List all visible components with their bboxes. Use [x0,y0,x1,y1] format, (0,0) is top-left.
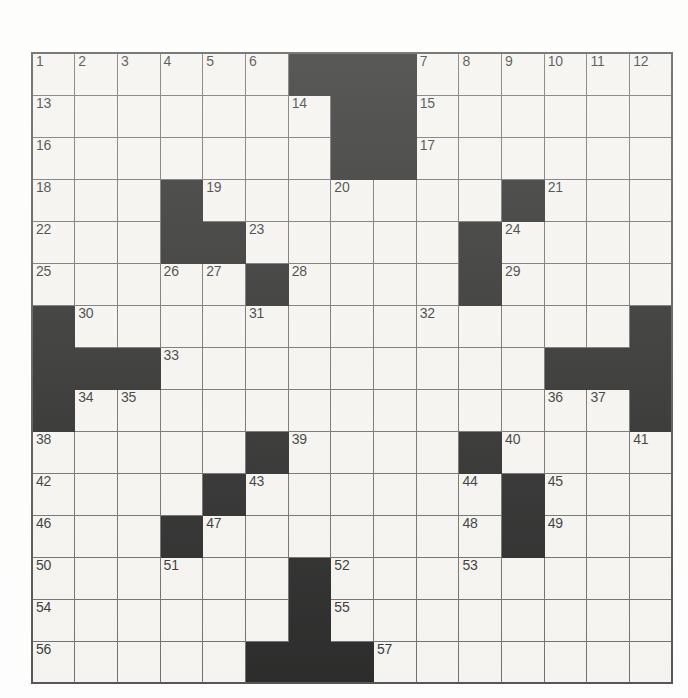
crossword-cell[interactable]: 34 [75,389,118,431]
crossword-cell[interactable] [203,557,246,599]
crossword-cell[interactable] [117,557,160,599]
crossword-cell[interactable] [374,515,417,557]
crossword-cell[interactable] [416,473,459,515]
crossword-cell[interactable] [117,599,160,641]
crossword-cell[interactable] [331,263,374,305]
crossword-cell[interactable] [502,599,545,641]
crossword-cell[interactable] [75,599,118,641]
crossword-cell[interactable] [75,179,118,221]
crossword-cell[interactable]: 51 [160,557,203,599]
crossword-cell[interactable]: 42 [32,473,75,515]
crossword-cell[interactable] [459,95,502,137]
crossword-cell[interactable]: 30 [75,305,118,347]
crossword-cell[interactable] [160,389,203,431]
crossword-cell[interactable] [630,641,673,683]
crossword-cell[interactable]: 2 [75,53,118,95]
crossword-cell[interactable]: 38 [32,431,75,473]
crossword-cell[interactable] [630,95,673,137]
crossword-cell[interactable] [117,515,160,557]
crossword-cell[interactable] [459,179,502,221]
crossword-cell[interactable]: 31 [245,305,288,347]
crossword-cell[interactable] [587,95,630,137]
crossword-cell[interactable] [374,179,417,221]
crossword-cell[interactable] [374,305,417,347]
crossword-cell[interactable] [416,179,459,221]
crossword-cell[interactable]: 39 [288,431,331,473]
crossword-cell[interactable] [75,263,118,305]
crossword-cell[interactable] [630,599,673,641]
crossword-cell[interactable]: 19 [203,179,246,221]
crossword-cell[interactable]: 45 [544,473,587,515]
crossword-cell[interactable] [245,179,288,221]
crossword-cell[interactable] [374,431,417,473]
crossword-cell[interactable] [117,179,160,221]
crossword-cell[interactable] [288,137,331,179]
crossword-cell[interactable] [203,95,246,137]
crossword-cell[interactable] [331,221,374,263]
crossword-cell[interactable]: 8 [459,53,502,95]
crossword-cell[interactable]: 7 [416,53,459,95]
crossword-cell[interactable]: 49 [544,515,587,557]
crossword-cell[interactable] [160,641,203,683]
crossword-cell[interactable] [331,389,374,431]
crossword-cell[interactable]: 54 [32,599,75,641]
crossword-cell[interactable]: 46 [32,515,75,557]
crossword-cell[interactable] [245,515,288,557]
crossword-cell[interactable] [416,641,459,683]
crossword-cell[interactable] [459,599,502,641]
crossword-cell[interactable] [459,137,502,179]
crossword-cell[interactable] [331,347,374,389]
crossword-cell[interactable] [544,137,587,179]
crossword-cell[interactable] [117,305,160,347]
crossword-cell[interactable] [587,305,630,347]
crossword-cell[interactable] [288,515,331,557]
crossword-cell[interactable]: 41 [630,431,673,473]
crossword-cell[interactable] [203,599,246,641]
crossword-cell[interactable] [587,599,630,641]
crossword-cell[interactable] [459,347,502,389]
crossword-cell[interactable] [587,179,630,221]
crossword-cell[interactable]: 33 [160,347,203,389]
crossword-cell[interactable] [416,263,459,305]
crossword-cell[interactable] [288,221,331,263]
crossword-cell[interactable] [245,599,288,641]
crossword-cell[interactable] [245,389,288,431]
crossword-cell[interactable]: 5 [203,53,246,95]
crossword-cell[interactable] [160,95,203,137]
crossword-cell[interactable] [203,347,246,389]
crossword-cell[interactable] [117,473,160,515]
crossword-cell[interactable] [374,389,417,431]
crossword-cell[interactable] [203,641,246,683]
crossword-cell[interactable] [203,389,246,431]
crossword-cell[interactable] [75,137,118,179]
crossword-cell[interactable]: 14 [288,95,331,137]
crossword-cell[interactable] [502,557,545,599]
crossword-cell[interactable] [587,515,630,557]
crossword-cell[interactable]: 11 [587,53,630,95]
crossword-cell[interactable] [203,431,246,473]
crossword-cell[interactable]: 18 [32,179,75,221]
crossword-cell[interactable] [374,263,417,305]
crossword-cell[interactable] [416,599,459,641]
crossword-cell[interactable] [160,473,203,515]
crossword-cell[interactable] [117,431,160,473]
crossword-cell[interactable] [630,473,673,515]
crossword-cell[interactable] [630,179,673,221]
crossword-cell[interactable]: 12 [630,53,673,95]
crossword-grid[interactable]: 1234567891011121314151617181920212223242… [31,52,673,684]
crossword-cell[interactable] [75,557,118,599]
crossword-cell[interactable]: 28 [288,263,331,305]
crossword-cell[interactable] [544,95,587,137]
crossword-cell[interactable]: 4 [160,53,203,95]
crossword-cell[interactable]: 40 [502,431,545,473]
crossword-cell[interactable] [587,137,630,179]
crossword-cell[interactable] [544,641,587,683]
crossword-cell[interactable] [459,641,502,683]
crossword-cell[interactable] [502,137,545,179]
crossword-cell[interactable] [245,95,288,137]
crossword-cell[interactable]: 25 [32,263,75,305]
crossword-cell[interactable] [331,431,374,473]
crossword-cell[interactable] [374,221,417,263]
crossword-cell[interactable] [288,347,331,389]
crossword-cell[interactable] [245,347,288,389]
